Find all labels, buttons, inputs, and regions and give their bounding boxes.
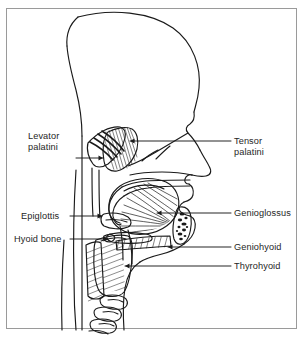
label-tensor-palatini-line2: palatini [234,147,264,158]
label-levator-palatini-line1: Levator [28,131,59,142]
label-tensor-palatini-line1: Tensor [234,136,264,147]
sagittal-head-neck-illustration [0,0,305,339]
label-genioglossus: Genioglossus [234,208,291,219]
label-thyrohyoid-line1: Thyrohyoid [234,261,280,272]
label-levator-palatini: Levator palatini [28,131,59,152]
label-geniohyoid-line1: Geniohyoid [234,242,281,253]
palate [109,180,190,225]
label-epiglottis-line1: Epiglottis [21,211,59,222]
label-geniohyoid: Geniohyoid [234,242,281,253]
label-levator-palatini-line2: palatini [28,142,59,153]
tracheal-lumen [99,300,123,326]
label-hyoid-bone-line1: Hyoid bone [14,234,61,245]
label-epiglottis: Epiglottis [21,211,59,222]
label-tensor-palatini: Tensor palatini [234,136,264,157]
label-thyrohyoid: Thyrohyoid [234,261,280,272]
label-hyoid-bone: Hyoid bone [14,234,61,245]
pharyngeal-wall [92,168,100,218]
infrahyoid-strap-muscle [86,242,104,299]
head-profile-outline [78,12,211,330]
anatomy-figure: Levator palatini Epiglottis Hyoid bone T… [0,0,305,339]
posterior-neck-outline [62,17,82,330]
label-genioglossus-line1: Genioglossus [234,208,291,219]
mandible-marrow-stipple [176,213,188,241]
